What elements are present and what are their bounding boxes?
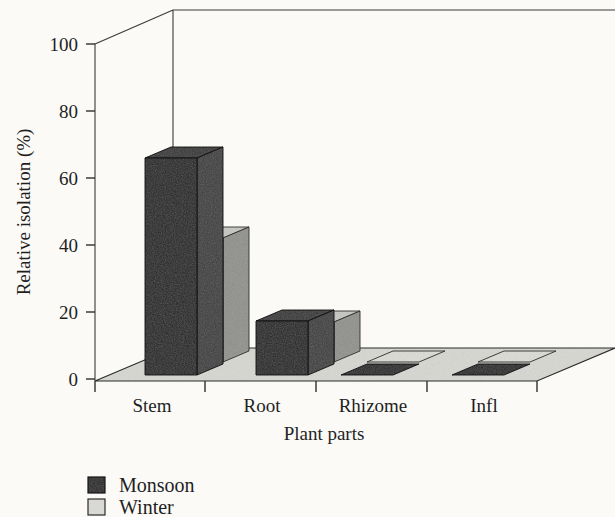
y-tick-label: 100 <box>50 34 79 55</box>
y-tick-label: 20 <box>59 302 78 323</box>
y-axis: 100 80 60 40 20 0 <box>50 34 96 390</box>
chart-page: 100 80 60 40 20 0 Relative isolation (%)… <box>0 0 615 517</box>
x-axis-title: Plant parts <box>284 423 365 444</box>
bar-group-stem <box>145 147 249 375</box>
bar-chart-3d: 100 80 60 40 20 0 Relative isolation (%)… <box>0 0 615 517</box>
chart-legend: Monsoon Winter <box>88 474 195 517</box>
bar-stem-monsoon <box>145 147 223 375</box>
y-tick-label: 80 <box>59 101 78 122</box>
legend-label-monsoon: Monsoon <box>119 474 195 496</box>
legend-swatch-monsoon <box>88 477 105 493</box>
legend-swatch-winter <box>88 499 105 515</box>
bar-root-monsoon <box>256 310 334 375</box>
x-tick-label-stem: Stem <box>132 395 171 416</box>
y-axis-title: Relative isolation (%) <box>13 129 35 296</box>
x-tick-label-infl: Infl <box>470 395 497 416</box>
y-tick-label: 0 <box>69 369 79 390</box>
x-axis: Stem Root Rhizome Infl <box>95 381 537 416</box>
x-tick-label-rhizome: Rhizome <box>339 395 408 416</box>
y-tick-label: 60 <box>59 168 78 189</box>
y-tick-label: 40 <box>59 235 78 256</box>
legend-label-winter: Winter <box>119 496 174 517</box>
x-tick-label-root: Root <box>244 395 282 416</box>
